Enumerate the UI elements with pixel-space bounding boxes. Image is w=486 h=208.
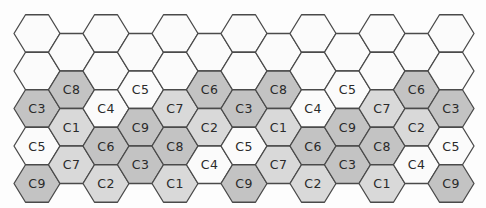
hex-label: C5 (235, 139, 253, 154)
hex-grid-canvas: C3C5C9C8C1C7C4C6C2C5C9C3C7C8C1C6C2C4C3C5… (0, 0, 486, 208)
hex-label: C2 (201, 120, 219, 135)
hex-label: C8 (373, 139, 391, 154)
hex-label: C4 (201, 157, 219, 172)
hex-label: C6 (304, 139, 322, 154)
hex-label: C5 (442, 139, 460, 154)
hex-label: C3 (235, 101, 253, 116)
hex-label: C2 (97, 176, 115, 191)
hex-label: C4 (408, 157, 426, 172)
hex-label: C1 (166, 176, 184, 191)
hex-label: C2 (304, 176, 322, 191)
hex-label: C7 (166, 101, 184, 116)
hex-label: C5 (28, 139, 46, 154)
hex-label: C7 (373, 101, 391, 116)
hex-grid-diagram: C3C5C9C8C1C7C4C6C2C5C9C3C7C8C1C6C2C4C3C5… (0, 0, 486, 208)
hex-label: C2 (408, 120, 426, 135)
hex-label: C9 (28, 176, 46, 191)
hex-label: C6 (408, 82, 426, 97)
hex-label: C3 (339, 157, 357, 172)
hex-label: C1 (63, 120, 81, 135)
hex-label: C4 (304, 101, 322, 116)
hex-label: C4 (97, 101, 115, 116)
hex-label: C6 (201, 82, 219, 97)
hex-label: C9 (132, 120, 150, 135)
hex-label: C8 (270, 82, 288, 97)
hex-label: C5 (339, 82, 357, 97)
hex-label: C7 (270, 157, 288, 172)
hex-label: C6 (97, 139, 115, 154)
hex-label: C3 (132, 157, 150, 172)
hex-label: C3 (28, 101, 46, 116)
hex-label: C9 (235, 176, 253, 191)
hex-label: C9 (442, 176, 460, 191)
hex-label: C1 (373, 176, 391, 191)
hex-label: C8 (166, 139, 184, 154)
hex-label: C3 (442, 101, 460, 116)
hex-label: C7 (63, 157, 81, 172)
hex-label: C1 (270, 120, 288, 135)
hex-label: C8 (63, 82, 81, 97)
hex-label: C9 (339, 120, 357, 135)
hex-label: C5 (132, 82, 150, 97)
